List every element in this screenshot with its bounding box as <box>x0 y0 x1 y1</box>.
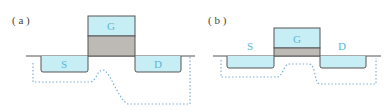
panel-b-label: ( b ) <box>208 15 226 26</box>
drain-label: D <box>154 58 162 70</box>
diagram-canvas: G S D G S D <box>0 0 391 111</box>
source-label: S <box>247 40 253 52</box>
gate-oxide <box>274 48 320 56</box>
source-label: S <box>61 58 67 70</box>
gate-oxide <box>88 36 135 56</box>
drain-label: D <box>338 40 346 52</box>
gate-label: G <box>293 33 301 45</box>
panel-a: G S D <box>26 16 195 104</box>
panel-a-label: ( a ) <box>12 15 30 26</box>
drain-well <box>320 56 366 68</box>
gate-label: G <box>107 20 115 32</box>
panel-b: G S D <box>213 28 381 84</box>
source-well <box>227 56 274 68</box>
